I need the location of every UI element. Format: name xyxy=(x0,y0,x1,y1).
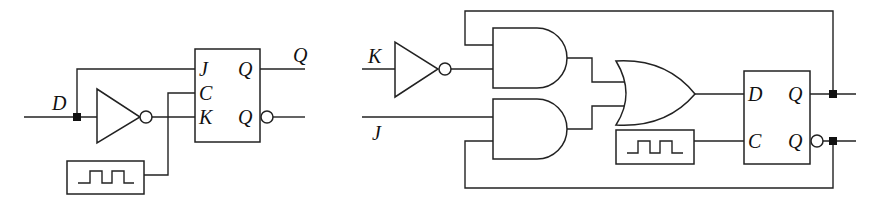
k-pin-label: K xyxy=(198,106,214,128)
junction-dot-q xyxy=(829,90,837,98)
junction-dot xyxy=(73,113,81,121)
q-pin-label: Q xyxy=(238,58,253,80)
junction-dot-qbar xyxy=(829,137,837,145)
k-input-label: K xyxy=(367,45,383,67)
inverter-bubble xyxy=(140,111,152,123)
qbar-bubble xyxy=(261,111,273,123)
and-gate-top xyxy=(493,28,567,88)
d-pin-label: D xyxy=(747,83,763,105)
qbar-pin-label: Q xyxy=(788,130,803,152)
q-pin-label: Q xyxy=(788,83,803,105)
left-circuit: D J C K Q Q Q xyxy=(24,44,308,194)
and-top-output-wire xyxy=(567,58,624,82)
right-circuit: K J D C Q Q xyxy=(362,11,856,188)
j-pin-label: J xyxy=(199,58,209,80)
c-pin-label: C xyxy=(748,130,762,152)
or-gate xyxy=(616,61,695,125)
qbar-pin-label: Q xyxy=(238,106,253,128)
c-pin-label: C xyxy=(199,82,213,104)
inverter-bubble xyxy=(439,63,451,75)
and-gate-bottom xyxy=(493,99,567,159)
not-gate xyxy=(395,42,438,97)
circuit-diagram: D J C K Q Q Q K J xyxy=(0,0,873,206)
clock-generator xyxy=(616,130,694,164)
j-input-label: J xyxy=(372,122,382,144)
not-gate xyxy=(97,89,140,143)
clock-generator xyxy=(67,161,144,194)
d-label: D xyxy=(51,92,67,114)
q-output-label: Q xyxy=(293,44,308,66)
clock-wire xyxy=(144,93,195,175)
qbar-bubble xyxy=(811,135,823,147)
